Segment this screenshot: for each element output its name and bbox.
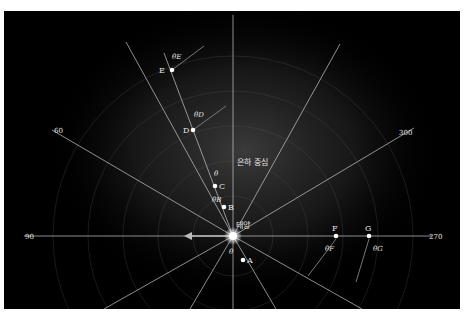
label-C: C xyxy=(219,182,225,191)
longitude-label-60: 60 xyxy=(54,127,63,135)
label-A: A xyxy=(246,256,253,265)
galaxy-diagram-panel: E D C B A F G θE θD θ θB θ θF θG 은하 중심 태… xyxy=(4,11,460,309)
label-galactic-center: 은하 중심 xyxy=(237,157,268,167)
angle-theta-E: θE xyxy=(172,53,181,61)
point-B xyxy=(222,205,227,210)
angle-theta-F: θF xyxy=(325,245,335,253)
label-sun: 태양 xyxy=(236,221,251,230)
point-F xyxy=(334,234,339,239)
longitude-label-90: 90 xyxy=(25,233,34,241)
label-E: E xyxy=(159,66,165,75)
label-G: G xyxy=(365,224,371,233)
label-B: B xyxy=(228,203,234,212)
longitude-label-270: 270 xyxy=(429,233,442,241)
label-D: D xyxy=(183,126,189,135)
sun-point xyxy=(229,232,237,240)
point-E xyxy=(170,68,175,73)
point-A xyxy=(241,258,246,263)
galaxy-glow xyxy=(44,11,444,301)
angle-theta-B: θB xyxy=(212,196,221,204)
angle-theta-G: θG xyxy=(373,245,383,253)
longitude-label-300: 300 xyxy=(399,129,412,137)
point-G xyxy=(367,234,372,239)
point-D xyxy=(191,128,196,133)
angle-theta-D: θD xyxy=(194,111,204,119)
point-C xyxy=(213,184,218,189)
label-F: F xyxy=(332,224,338,233)
galaxy-diagram: E D C B A F G θE θD θ θB θ θF θG 은하 중심 태… xyxy=(4,11,460,309)
